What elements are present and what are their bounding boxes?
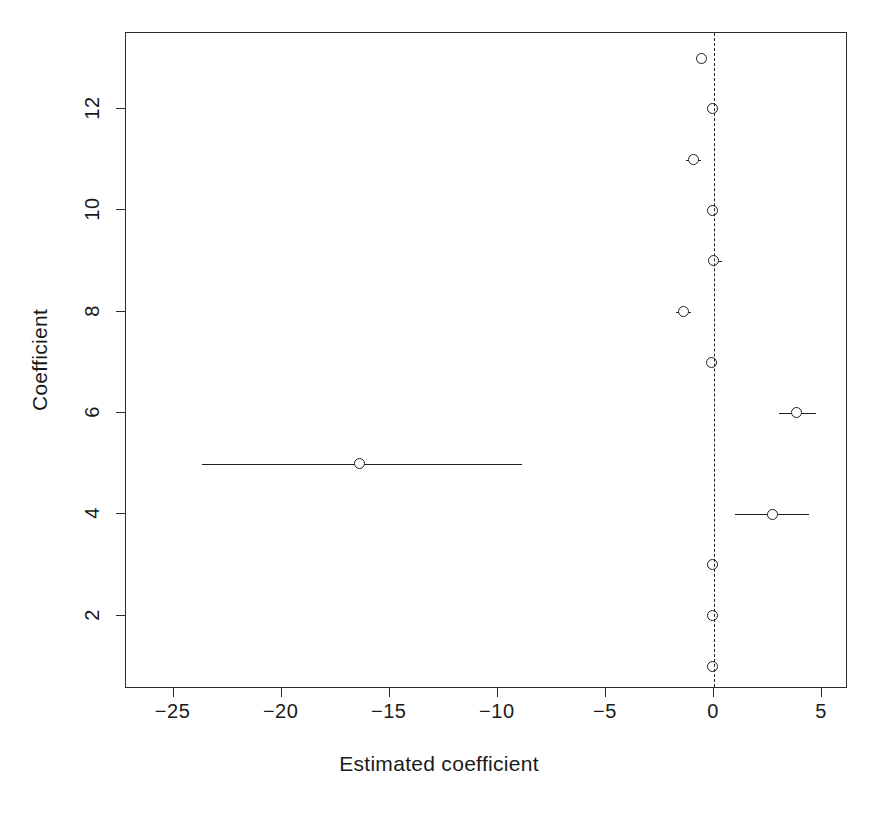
estimate-point-marker bbox=[678, 306, 689, 317]
estimate-point-marker bbox=[707, 103, 718, 114]
x-axis-tick-label: −15 bbox=[371, 700, 406, 723]
x-axis-tick-label: −25 bbox=[155, 700, 190, 723]
x-axis-tick bbox=[821, 688, 822, 697]
y-axis-tick-label: 8 bbox=[81, 305, 104, 317]
coefficient-plot-figure: −25−20−15−10−505 24681012 Estimated coef… bbox=[0, 0, 878, 817]
y-axis-tick-label: 6 bbox=[81, 406, 104, 418]
estimate-point-marker bbox=[707, 205, 718, 216]
x-axis-tick-label: 5 bbox=[815, 700, 827, 723]
y-axis-tick bbox=[116, 412, 125, 413]
zero-reference-line bbox=[714, 33, 715, 687]
estimate-point-marker bbox=[688, 154, 699, 165]
estimate-point-marker bbox=[706, 357, 717, 368]
estimate-point-marker bbox=[354, 458, 365, 469]
plot-frame bbox=[125, 32, 847, 688]
x-axis-tick bbox=[281, 688, 282, 697]
y-axis-tick-label: 10 bbox=[81, 198, 104, 221]
y-axis-tick bbox=[116, 615, 125, 616]
estimate-point-marker bbox=[767, 509, 778, 520]
x-axis-title: Estimated coefficient bbox=[0, 752, 878, 776]
x-axis-tick bbox=[173, 688, 174, 697]
x-axis-tick bbox=[605, 688, 606, 697]
x-axis-tick-label: −5 bbox=[593, 700, 617, 723]
y-axis-title: Coefficient bbox=[28, 309, 52, 411]
y-axis-tick bbox=[116, 108, 125, 109]
estimate-point-marker bbox=[707, 661, 718, 672]
x-axis-tick-label: −10 bbox=[479, 700, 514, 723]
y-axis-tick bbox=[116, 513, 125, 514]
y-axis-tick bbox=[116, 209, 125, 210]
y-axis-tick-label: 2 bbox=[81, 609, 104, 621]
x-axis-tick bbox=[713, 688, 714, 697]
estimate-point-marker bbox=[707, 559, 718, 570]
estimate-point-marker bbox=[707, 610, 718, 621]
estimate-point-marker bbox=[791, 407, 802, 418]
y-axis-tick-label: 12 bbox=[81, 96, 104, 119]
plot-area bbox=[126, 33, 846, 687]
estimate-point-marker bbox=[696, 53, 707, 64]
x-axis-tick-label: −20 bbox=[263, 700, 298, 723]
y-axis-tick bbox=[116, 311, 125, 312]
y-axis-tick-label: 4 bbox=[81, 507, 104, 519]
x-axis-tick bbox=[497, 688, 498, 697]
x-axis-tick bbox=[389, 688, 390, 697]
x-axis-tick-label: 0 bbox=[707, 700, 719, 723]
